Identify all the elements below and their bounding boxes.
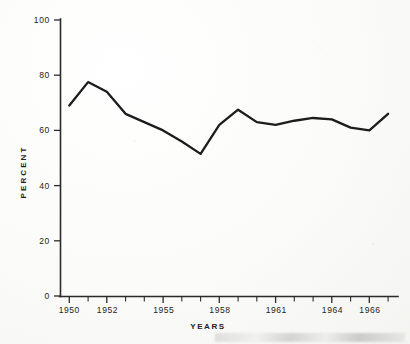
x-tick-label-1952: 1952	[97, 305, 118, 315]
x-tick-label-1966: 1966	[359, 305, 380, 315]
data-series-line	[69, 82, 388, 154]
y-axis-tick-labels: 100 80 60 40 20 0	[34, 15, 50, 301]
line-chart-plot: 100 80 60 40 20 0 PERCENT	[0, 0, 410, 344]
y-tick-label-40: 40	[39, 181, 50, 191]
y-tick-label-100: 100	[34, 15, 50, 25]
x-axis-major-ticks	[69, 297, 369, 304]
x-axis-title: YEARS	[190, 322, 226, 331]
y-tick-label-20: 20	[39, 236, 50, 246]
chart-figure: 100 80 60 40 20 0 PERCENT	[0, 0, 410, 344]
y-tick-label-0: 0	[45, 291, 50, 301]
x-axis-tick-labels: 1950 1952 1955 1958 1961 1964 1966	[59, 305, 381, 315]
x-tick-label-1958: 1958	[209, 305, 230, 315]
y-axis-ticks	[54, 20, 61, 296]
y-tick-label-80: 80	[39, 70, 50, 80]
y-axis-title: PERCENT	[19, 146, 28, 199]
x-tick-label-1955: 1955	[153, 305, 174, 315]
x-tick-label-1961: 1961	[266, 305, 287, 315]
x-tick-label-1964: 1964	[322, 305, 343, 315]
x-tick-label-1950: 1950	[59, 305, 80, 315]
y-tick-label-60: 60	[39, 125, 50, 135]
